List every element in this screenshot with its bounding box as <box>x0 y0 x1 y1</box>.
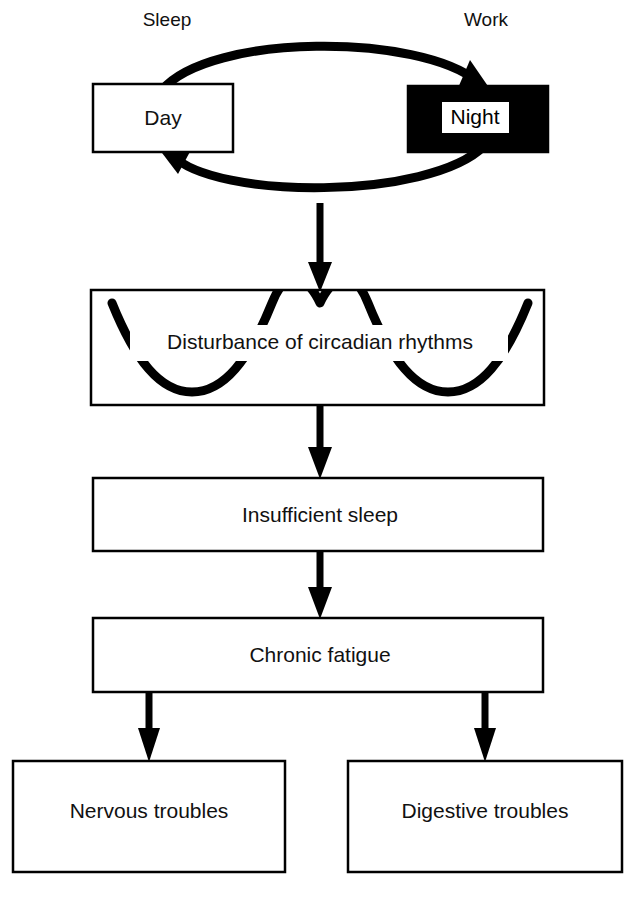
node-night-label: Night <box>450 105 499 128</box>
node-chronic-fatigue[interactable]: Chronic fatigue <box>93 618 543 692</box>
diagram-canvas: Sleep Work Day Night <box>0 0 642 903</box>
node-circadian-label: Disturbance of circadian rhythms <box>167 330 473 353</box>
edge-fatigue-to-digestive <box>474 692 496 762</box>
node-day[interactable]: Day <box>93 84 233 152</box>
edge-cycle-to-circadian <box>308 203 332 292</box>
edge-fatigue-to-nervous <box>138 692 160 762</box>
node-insufficient-sleep[interactable]: Insufficient sleep <box>93 478 543 551</box>
node-day-label: Day <box>144 106 182 129</box>
edge-circadian-to-sleep <box>308 405 332 479</box>
node-digestive-troubles-label: Digestive troubles <box>402 799 569 822</box>
node-chronic-fatigue-label: Chronic fatigue <box>249 643 390 666</box>
node-night[interactable]: Night <box>408 86 548 152</box>
header-label-sleep: Sleep <box>143 9 192 30</box>
flowchart-diagram: Sleep Work Day Night <box>0 0 642 903</box>
header-label-work: Work <box>464 9 508 30</box>
edge-sleep-to-fatigue <box>308 551 332 619</box>
node-nervous-troubles[interactable]: Nervous troubles <box>13 761 285 872</box>
node-insufficient-sleep-label: Insufficient sleep <box>242 503 398 526</box>
node-digestive-troubles[interactable]: Digestive troubles <box>348 761 622 872</box>
node-circadian[interactable]: Disturbance of circadian rhythms <box>91 278 544 405</box>
node-nervous-troubles-label: Nervous troubles <box>70 799 229 822</box>
